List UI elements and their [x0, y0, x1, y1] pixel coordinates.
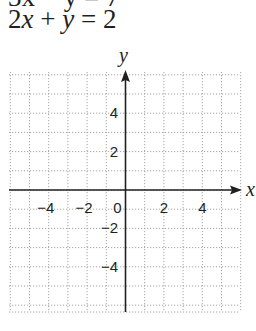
y-tick-label: 4 — [110, 104, 118, 121]
x-tick-label: 4 — [198, 199, 206, 216]
y-axis-label: y — [117, 44, 128, 67]
x-tick-label: 0 — [113, 199, 121, 216]
x-tick-label: 2 — [160, 199, 168, 216]
y-tick-label: 2 — [110, 143, 118, 160]
y-tick-label: −4 — [101, 258, 118, 275]
x-tick-labels: −4−2024 — [37, 199, 206, 216]
x-axis-label: x — [245, 178, 255, 200]
x-tick-label: −4 — [37, 199, 54, 216]
x-tick-label: −2 — [76, 199, 93, 216]
y-tick-label: −2 — [101, 219, 118, 236]
coordinate-grid: x y −4−2024 42−2−4 — [0, 0, 256, 331]
